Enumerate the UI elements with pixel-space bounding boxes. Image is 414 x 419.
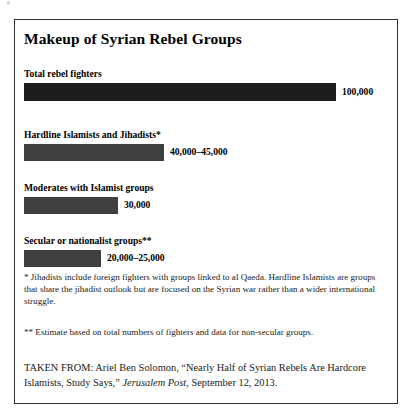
- footnote-jihadists: * Jihadists include foreign fighters wit…: [24, 271, 388, 307]
- bar-value-hardline-islamists: 40,000–45,000: [170, 147, 228, 157]
- bar-label-moderates: Moderates with Islamist groups: [24, 183, 388, 194]
- bar-hardline-islamists: [24, 144, 164, 161]
- bar-label-total-rebel-fighters: Total rebel fighters: [24, 69, 388, 80]
- bar-value-secular-nationalist: 20,000–25,000: [107, 253, 165, 263]
- footnote-estimate: ** Estimate based on total numbers of fi…: [24, 326, 388, 338]
- source-publication: Jerusalem Post: [122, 377, 186, 388]
- bar-value-total-rebel-fighters: 100,000: [342, 87, 373, 97]
- bar-label-secular-nationalist: Secular or nationalist groups**: [24, 236, 388, 247]
- source-citation: TAKEN FROM: Ariel Ben Solomon, “Nearly H…: [24, 360, 388, 390]
- bar-label-hardline-islamists: Hardline Islamists and Jihadists*: [24, 130, 388, 141]
- bar-row-moderates: 30,000: [24, 197, 388, 214]
- figure-inner: Makeup of Syrian Rebel Groups Total rebe…: [24, 20, 388, 403]
- bar-row-hardline-islamists: 40,000–45,000: [24, 144, 388, 161]
- bar-group-hardline-islamists: Hardline Islamists and Jihadists* 40,000…: [24, 130, 388, 161]
- bar-value-moderates: 30,000: [124, 200, 150, 210]
- bar-group-moderates: Moderates with Islamist groups 30,000: [24, 183, 388, 214]
- bar-row-total-rebel-fighters: 100,000: [24, 83, 388, 101]
- bar-row-secular-nationalist: 20,000–25,000: [24, 250, 388, 267]
- bar-secular-nationalist: [24, 250, 101, 267]
- figure-container: Makeup of Syrian Rebel Groups Total rebe…: [14, 19, 398, 404]
- source-suffix: , September 12, 2013.: [186, 377, 277, 388]
- figure-title: Makeup of Syrian Rebel Groups: [24, 30, 242, 47]
- bar-group-secular-nationalist: Secular or nationalist groups** 20,000–2…: [24, 236, 388, 267]
- bar-moderates: [24, 197, 118, 214]
- bar-group-total-rebel-fighters: Total rebel fighters 100,000: [24, 69, 388, 101]
- bar-total-rebel-fighters: [24, 83, 336, 101]
- scan-artifact-speck: [7, 1, 10, 5]
